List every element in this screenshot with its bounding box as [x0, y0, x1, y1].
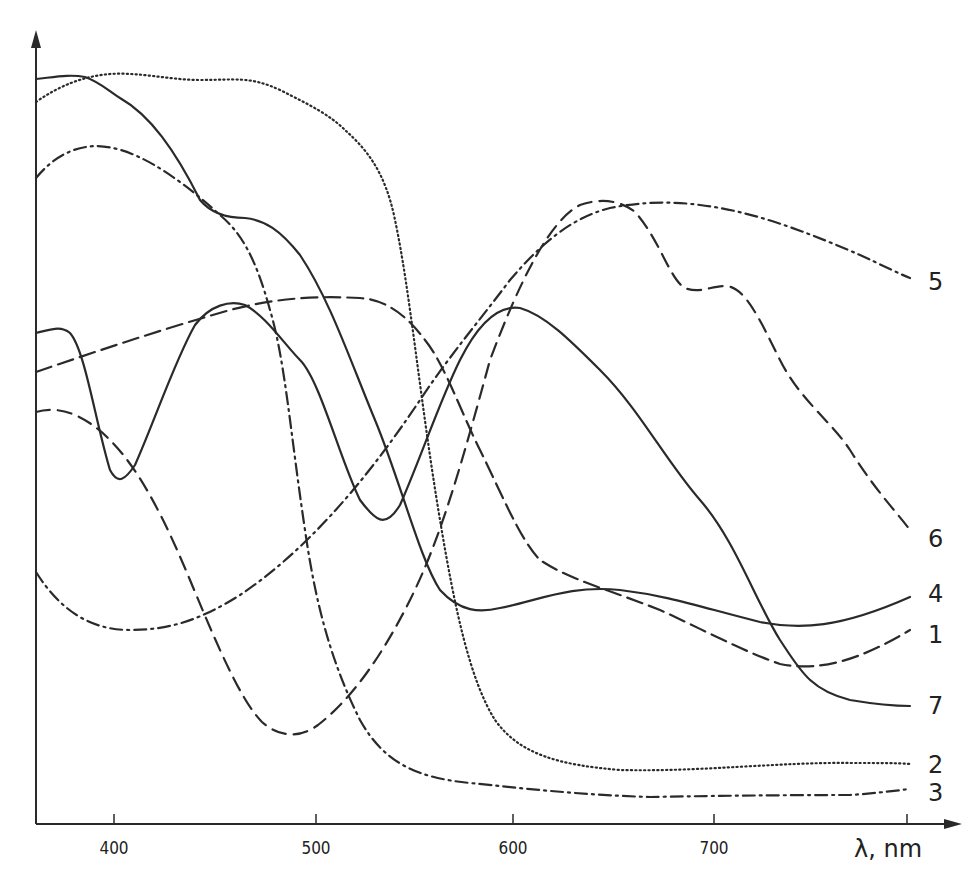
x-ticks: [114, 814, 907, 824]
x-axis-arrow-icon: [944, 819, 962, 829]
x-axis-label: λ, nm: [854, 835, 922, 863]
curve-label-1: 1: [928, 621, 943, 649]
curve-label-2: 2: [928, 751, 943, 779]
spectral-chart: 400 500 600 700 λ, nm 5 6 4 1 7 2 3: [0, 0, 977, 882]
curve-1: [36, 297, 910, 666]
x-tick-label-500: 500: [301, 838, 330, 858]
x-tick-label-400: 400: [99, 838, 128, 858]
curve-label-4: 4: [928, 580, 943, 608]
curve-5: [36, 203, 910, 630]
x-tick-label-700: 700: [699, 838, 728, 858]
curve-label-6: 6: [928, 525, 943, 553]
curve-label-3: 3: [928, 779, 943, 807]
curve-label-5: 5: [928, 268, 943, 296]
curve-6: [36, 201, 910, 734]
curve-7: [36, 76, 910, 626]
curve-label-7: 7: [928, 692, 943, 720]
curve-4: [36, 303, 910, 706]
curve-2: [36, 74, 910, 771]
y-axis-arrow-icon: [31, 30, 41, 48]
curve-3: [36, 146, 910, 797]
x-tick-label-600: 600: [498, 838, 527, 858]
